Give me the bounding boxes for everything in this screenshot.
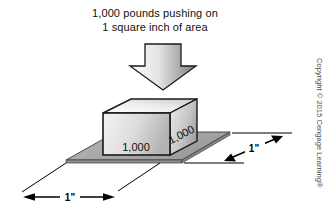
width-dimension-label: 1" bbox=[65, 192, 76, 203]
arrow-shape bbox=[130, 44, 196, 90]
figure-scene: 1,000 1,000 1" 1" bbox=[0, 0, 328, 215]
figure-root: 1,000 pounds pushing on 1 square inch of… bbox=[0, 0, 328, 215]
force-cube: 1,000 1,000 bbox=[103, 99, 197, 155]
width-dimension-arrow-right bbox=[103, 193, 115, 201]
width-dimension-arrow-left bbox=[23, 193, 35, 201]
downward-force-arrow bbox=[130, 44, 196, 90]
width-dimension: 1" bbox=[22, 163, 160, 205]
depth-dimension-label: 1" bbox=[249, 143, 260, 154]
depth-dimension-arrow-lower bbox=[224, 154, 236, 162]
ground-plane-front-edge bbox=[66, 160, 182, 163]
cube-front-face-label: 1,000 bbox=[122, 141, 150, 153]
copyright-notice: Copyright © 2015 Cengage Learning® bbox=[315, 58, 324, 188]
width-dimension-extension-left bbox=[22, 163, 66, 192]
width-dimension-extension-right bbox=[118, 163, 160, 191]
